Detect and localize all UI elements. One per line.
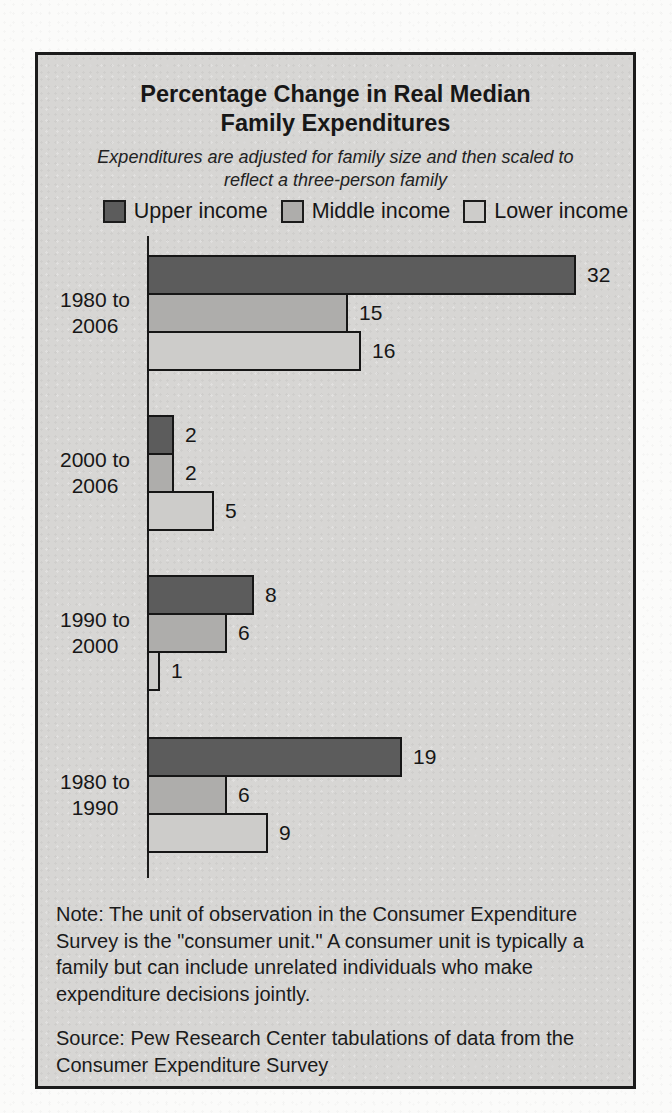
bar-row: 32 [147, 255, 610, 295]
note-text: Note: The unit of observation in the Con… [56, 901, 631, 1007]
category-label: 2000 to 2006 [50, 447, 140, 500]
middle-income-swatch-icon [281, 200, 304, 223]
bar-upper-income [147, 737, 402, 777]
bar-value-label: 1 [171, 659, 183, 683]
bar-row: 6 [147, 613, 250, 653]
bar-row: 1 [147, 651, 183, 691]
bar-value-label: 6 [238, 621, 250, 645]
legend-item-lower-income: Lower income [463, 199, 628, 224]
bar-upper-income [147, 575, 254, 615]
chart-subtitle: Expenditures are adjusted for family siz… [95, 146, 577, 193]
category-label: 1980 to 1990 [50, 769, 140, 822]
bar-row: 9 [147, 813, 291, 853]
legend-label: Lower income [494, 199, 628, 224]
bar-group-1980-2006: 1980 to 2006 32 15 16 [38, 255, 633, 371]
bar-group-1990-2000: 1990 to 2000 8 6 1 [38, 575, 633, 691]
bar-middle-income [147, 613, 227, 653]
bar-lower-income [147, 651, 160, 691]
bar-value-label: 2 [185, 423, 197, 447]
bar-upper-income [147, 415, 174, 455]
bar-middle-income [147, 453, 174, 493]
bar-lower-income [147, 331, 361, 371]
bar-middle-income [147, 775, 227, 815]
bar-upper-income [147, 255, 576, 295]
footnotes: Note: The unit of observation in the Con… [56, 901, 631, 1079]
bar-row: 5 [147, 491, 237, 531]
chart-panel: Percentage Change in Real Median Family … [35, 52, 636, 1089]
bar-row: 2 [147, 453, 197, 493]
bar-row: 8 [147, 575, 277, 615]
upper-income-swatch-icon [103, 200, 126, 223]
legend-item-upper-income: Upper income [103, 199, 268, 224]
bar-value-label: 19 [413, 745, 436, 769]
legend-item-middle-income: Middle income [281, 199, 451, 224]
bar-lower-income [147, 491, 214, 531]
bar-value-label: 6 [238, 783, 250, 807]
bar-middle-income [147, 293, 348, 333]
chart-title: Percentage Change in Real Median Family … [121, 80, 551, 138]
bar-value-label: 32 [587, 263, 610, 287]
bar-group-1980-1990: 1980 to 1990 19 6 9 [38, 737, 633, 853]
bar-row: 19 [147, 737, 436, 777]
legend-label: Middle income [312, 199, 451, 224]
bar-value-label: 15 [359, 301, 382, 325]
legend: Upper income Middle income Lower income [38, 199, 633, 224]
scanned-page: Percentage Change in Real Median Family … [0, 0, 672, 1113]
source-text: Source: Pew Research Center tabulations … [56, 1025, 631, 1078]
bar-row: 15 [147, 293, 382, 333]
lower-income-swatch-icon [463, 200, 486, 223]
bar-group-2000-2006: 2000 to 2006 2 2 5 [38, 415, 633, 531]
bar-lower-income [147, 813, 268, 853]
category-label: 1990 to 2000 [50, 607, 140, 660]
bar-value-label: 8 [265, 583, 277, 607]
category-label: 1980 to 2006 [50, 287, 140, 340]
bar-value-label: 16 [372, 339, 395, 363]
bar-row: 16 [147, 331, 395, 371]
bar-value-label: 2 [185, 461, 197, 485]
bar-value-label: 5 [225, 499, 237, 523]
bar-row: 6 [147, 775, 250, 815]
legend-label: Upper income [134, 199, 268, 224]
bar-value-label: 9 [279, 821, 291, 845]
bar-row: 2 [147, 415, 197, 455]
